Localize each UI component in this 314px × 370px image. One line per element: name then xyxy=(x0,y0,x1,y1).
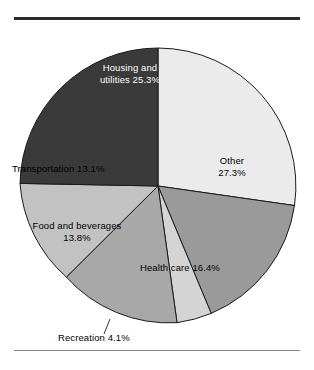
pie-label-recreation: Recreation 4.1% xyxy=(58,332,190,344)
pie-label-housing-and-utilities: Housing and utilities 25.3% xyxy=(78,62,182,86)
bottom-horizontal-rule xyxy=(14,350,300,351)
pie-label-transportation: Transportation 13.1% xyxy=(12,163,136,175)
pie-label-food-and-beverages: Food and beverages 13.8% xyxy=(20,220,134,244)
figure-container: Housing and utilities 25.3% Other 27.3% … xyxy=(0,0,314,370)
pie-label-health-care: Health care 16.4% xyxy=(140,262,250,274)
pie-label-other: Other 27.3% xyxy=(196,155,268,179)
pie-chart xyxy=(0,0,314,370)
